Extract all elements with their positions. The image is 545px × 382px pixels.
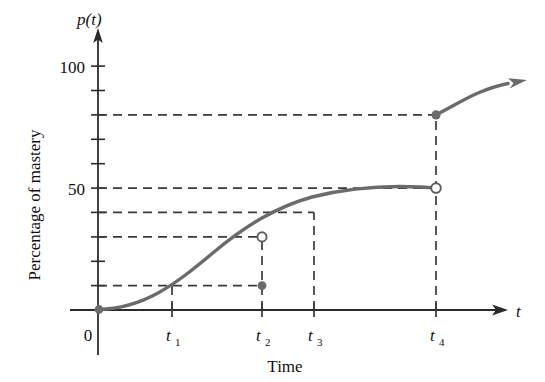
y-tick-label-50: 50 bbox=[68, 180, 85, 199]
t4-filled-dot-jump bbox=[431, 110, 440, 119]
x-tick-label-t4-sub: 4 bbox=[439, 336, 445, 348]
x-tick-label-t2-sub: 2 bbox=[265, 336, 271, 348]
x-tick-label-t3-sub: 3 bbox=[317, 336, 323, 348]
origin-filled-dot bbox=[95, 305, 104, 314]
x-axis-name: Time bbox=[267, 357, 302, 376]
t4-open-circle-on-curve bbox=[431, 183, 441, 193]
y-axis-name: Percentage of mastery bbox=[25, 129, 44, 281]
y-axis-title: p(t) bbox=[76, 10, 102, 29]
mastery-percentage-chart: p(t) t 100 50 0 t 1 t 2 t 3 t 4 Time Per… bbox=[0, 0, 545, 382]
y-tick-label-100: 100 bbox=[60, 58, 86, 77]
x-tick-label-t1-sub: 1 bbox=[175, 336, 181, 348]
t2-open-circle-on-curve bbox=[257, 232, 266, 241]
origin-label: 0 bbox=[84, 326, 93, 345]
t2-filled-dot-below bbox=[258, 281, 267, 290]
